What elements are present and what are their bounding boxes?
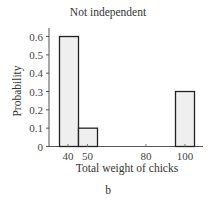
bar-40	[60, 37, 79, 147]
x-tick-label: 50	[82, 150, 94, 162]
x-tick-label: 80	[141, 150, 153, 162]
y-axis-label: Probability	[11, 65, 24, 116]
x-axis-label: Total weight of chicks	[76, 162, 179, 175]
y-tick-label: 0.4	[29, 67, 43, 79]
y-tick-label: 0	[38, 141, 44, 153]
y-tick-label: 0.1	[29, 122, 43, 134]
y-tick-label: 0.2	[29, 104, 43, 116]
y-ticks: 00.10.20.30.40.50.6	[29, 31, 49, 153]
bar-100	[176, 92, 195, 147]
panel-label: b	[0, 184, 216, 196]
y-tick-label: 0.3	[29, 86, 43, 98]
x-tick-label: 40	[63, 150, 75, 162]
y-tick-label: 0.5	[29, 49, 43, 61]
x-tick-label: 100	[177, 150, 194, 162]
bar-50	[79, 128, 98, 146]
chart-plot: 00.10.20.30.40.50.6 405080100 Probabilit…	[0, 0, 216, 202]
y-tick-label: 0.6	[29, 31, 43, 43]
